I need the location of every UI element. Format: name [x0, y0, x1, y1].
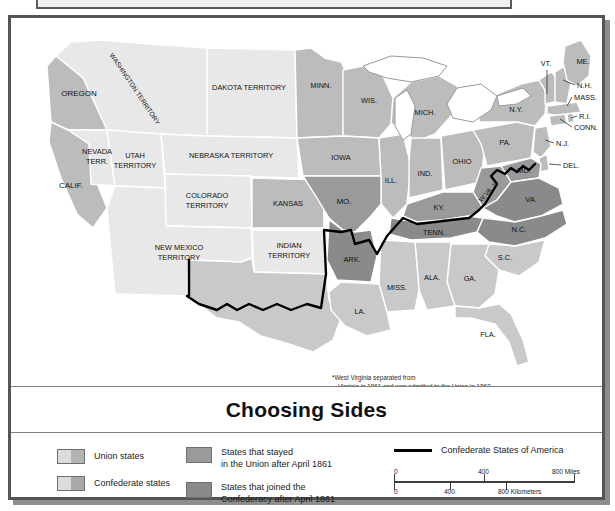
- swatch-joined-confederacy: [186, 482, 212, 498]
- swatch-union-states: [57, 449, 85, 464]
- label-kentucky: KY.: [434, 203, 445, 212]
- region-minnesota[interactable]: [295, 48, 345, 138]
- swatch-confederate-states: [57, 476, 85, 491]
- label-new-york: N.Y.: [509, 105, 522, 114]
- region-rhode-island[interactable]: [567, 113, 574, 123]
- label-alabama: ALA.: [424, 273, 440, 282]
- label-nebraska-territory: NEBRASKA TERRITORY: [189, 151, 273, 160]
- label-mississippi: MISS.: [387, 283, 407, 292]
- legend-label-confederate-states: Confederate states: [94, 476, 170, 490]
- swatch-stayed-in-union: [186, 447, 212, 463]
- label-indian-territory-l1: INDIAN: [276, 241, 301, 250]
- label-utah-territory-l2: TERRITORY: [114, 161, 157, 170]
- label-michigan: MICH.: [415, 108, 436, 117]
- label-pennsylvania: PA.: [499, 138, 510, 147]
- map-panel[interactable]: WASHINGTON TERRITORY OREGON CALIF. NEVAD…: [11, 18, 602, 386]
- label-maryland: MD.: [517, 166, 531, 175]
- top-partial-panel: [36, 0, 512, 9]
- footnote-line-1: *West Virginia separated from: [332, 374, 415, 382]
- scale-tick-miles-400: [484, 474, 485, 482]
- label-wisconsin: WIS.: [361, 96, 377, 105]
- label-new-mexico-territory-l1: NEW MEXICO: [155, 243, 204, 252]
- label-minnesota: MINN.: [311, 81, 332, 90]
- label-florida: FLA.: [480, 330, 496, 339]
- scale-label-km-800: 800 Kilometers: [498, 488, 541, 495]
- label-georgia: GA.: [464, 274, 477, 283]
- label-california: CALIF.: [59, 181, 83, 190]
- label-nevada-territory-l2: TERR.: [86, 157, 108, 166]
- legend-label-csa-boundary: Confederate States of America: [441, 445, 564, 455]
- page-title: Choosing Sides: [226, 398, 387, 422]
- region-mississippi[interactable]: [379, 240, 419, 312]
- legend-label-stayed-union: States that stayed in the Union after Ap…: [221, 447, 332, 470]
- label-colorado-territory-l2: TERRITORY: [186, 201, 229, 210]
- label-new-mexico-territory-l2: TERRITORY: [158, 253, 201, 262]
- scale-tick-miles-800: [574, 474, 575, 482]
- label-iowa: IOWA: [331, 153, 351, 162]
- label-new-jersey: N.J.: [556, 139, 569, 148]
- region-new-jersey[interactable]: [533, 126, 551, 158]
- label-massachusetts: MASS.: [574, 93, 597, 102]
- legend-column-boundary-and-scale: Confederate States of America 0 400 800 …: [394, 445, 584, 498]
- label-tennessee: TENN.: [423, 228, 445, 237]
- scale-tick-miles-0: [394, 474, 395, 482]
- label-missouri: MO.: [336, 197, 351, 206]
- label-dakota-territory: DAKOTA TERRITORY: [212, 83, 286, 92]
- legend: Union states Confederate states States t…: [11, 433, 602, 497]
- label-vermont: VT.: [541, 59, 552, 68]
- label-connecticut: CONN.: [574, 123, 598, 132]
- region-indiana[interactable]: [409, 138, 443, 198]
- legend-label-union-states: Union states: [94, 449, 144, 463]
- scale-label-miles-800: 800 Miles: [552, 468, 580, 475]
- label-indiana: IND.: [418, 169, 433, 178]
- label-indian-territory-l2: TERRITORY: [268, 251, 311, 260]
- scale-label-km-400: 400: [444, 488, 455, 495]
- label-ohio: OHIO: [453, 157, 472, 166]
- label-illinois: ILL.: [385, 176, 397, 185]
- label-oregon: OREGON: [61, 89, 97, 98]
- scale-label-km-0: 0: [394, 488, 398, 495]
- label-rhode-island: R.I.: [579, 112, 591, 121]
- label-virginia: VA.: [525, 195, 536, 204]
- legend-column-timing: States that stayed in the Union after Ap…: [186, 447, 335, 505]
- scale-label-miles-400: 400: [478, 468, 489, 475]
- legend-item-union-states[interactable]: Union states: [57, 449, 170, 464]
- legend-item-joined-confederacy[interactable]: States that joined the Confederacy after…: [186, 482, 335, 505]
- label-arkansas: ARK.: [343, 255, 360, 264]
- label-south-carolina: S.C.: [498, 253, 512, 262]
- region-connecticut[interactable]: [549, 114, 567, 126]
- csa-boundary-line-swatch: [394, 449, 432, 452]
- leader-delaware: [549, 164, 561, 165]
- label-maine: ME.: [576, 57, 589, 66]
- label-delaware: DEL.: [563, 161, 579, 170]
- legend-item-csa-boundary[interactable]: Confederate States of America: [394, 445, 584, 455]
- map-footnote: *West Virginia separated from Virginia i…: [332, 374, 493, 386]
- label-louisiana: LA.: [354, 307, 365, 316]
- label-nevada-territory-l1: NEVADA: [82, 147, 112, 156]
- region-dakota-territory[interactable]: [207, 48, 297, 138]
- legend-item-confederate-states[interactable]: Confederate states: [57, 476, 170, 491]
- figure-frame: WASHINGTON TERRITORY OREGON CALIF. NEVAD…: [8, 15, 605, 500]
- title-band: Choosing Sides: [11, 387, 602, 432]
- label-new-hampshire: N.H.: [577, 81, 592, 90]
- label-colorado-territory-l1: COLORADO: [186, 191, 229, 200]
- label-north-carolina: N.C.: [512, 225, 527, 234]
- united-states-map-svg[interactable]: WASHINGTON TERRITORY OREGON CALIF. NEVAD…: [11, 18, 602, 386]
- scale-bar: 0 400 800 Miles 0 400 800 Kilometers: [394, 468, 584, 498]
- label-kansas: KANSAS: [273, 199, 303, 208]
- map-figure: WASHINGTON TERRITORY OREGON CALIF. NEVAD…: [0, 0, 615, 511]
- legend-label-joined-confederacy: States that joined the Confederacy after…: [221, 482, 335, 505]
- legend-item-stayed-union[interactable]: States that stayed in the Union after Ap…: [186, 447, 335, 470]
- label-utah-territory-l1: UTAH: [125, 151, 145, 160]
- legend-column-categories: Union states Confederate states: [57, 449, 170, 491]
- scale-label-miles-0: 0: [394, 468, 398, 475]
